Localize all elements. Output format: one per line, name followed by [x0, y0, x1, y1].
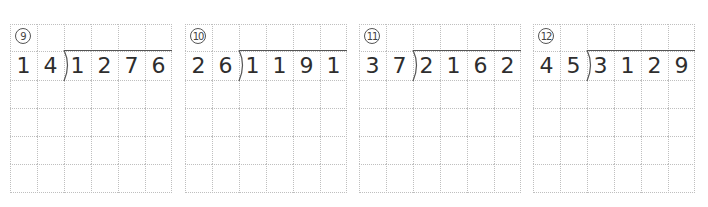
grid-cell[interactable] — [37, 80, 64, 108]
grid-cell[interactable] — [239, 108, 266, 136]
grid-cell[interactable] — [91, 24, 118, 51]
grid-cell[interactable] — [118, 80, 145, 108]
grid-cell[interactable] — [212, 136, 239, 164]
grid-cell[interactable] — [145, 136, 172, 164]
grid-cell[interactable] — [64, 80, 91, 108]
grid-cell[interactable] — [467, 164, 494, 193]
grid-cell[interactable] — [533, 164, 560, 193]
grid-cell[interactable] — [641, 164, 668, 193]
grid-cell[interactable] — [293, 164, 320, 193]
grid-cell[interactable] — [533, 80, 560, 108]
grid-cell[interactable] — [386, 108, 413, 136]
grid-cell[interactable] — [64, 108, 91, 136]
grid-cell[interactable] — [266, 136, 293, 164]
grid-cell[interactable] — [668, 164, 695, 193]
grid-cell[interactable] — [185, 164, 212, 193]
grid-cell[interactable] — [91, 80, 118, 108]
grid-cell[interactable] — [118, 108, 145, 136]
grid-cell[interactable] — [359, 80, 386, 108]
grid-cell[interactable] — [145, 164, 172, 193]
grid-cell[interactable] — [467, 136, 494, 164]
grid-cell[interactable] — [10, 80, 37, 108]
grid-cell[interactable] — [533, 136, 560, 164]
grid-cell[interactable] — [118, 164, 145, 193]
grid-cell[interactable] — [293, 136, 320, 164]
grid-cell[interactable] — [118, 24, 145, 51]
grid-cell[interactable] — [440, 136, 467, 164]
grid-cell[interactable] — [560, 24, 587, 51]
grid-cell[interactable] — [10, 136, 37, 164]
grid-cell[interactable] — [185, 80, 212, 108]
grid-cell[interactable] — [145, 80, 172, 108]
grid-cell[interactable] — [239, 136, 266, 164]
grid-cell[interactable] — [266, 164, 293, 193]
grid-cell[interactable] — [185, 108, 212, 136]
grid-cell[interactable] — [359, 108, 386, 136]
grid-cell[interactable] — [386, 136, 413, 164]
grid-cell[interactable] — [440, 164, 467, 193]
grid-cell[interactable] — [64, 164, 91, 193]
grid-cell[interactable] — [185, 136, 212, 164]
grid-cell[interactable] — [239, 80, 266, 108]
grid-cell[interactable] — [239, 164, 266, 193]
grid-cell[interactable] — [212, 80, 239, 108]
grid-cell[interactable] — [533, 108, 560, 136]
grid-cell[interactable] — [293, 108, 320, 136]
grid-cell[interactable] — [320, 108, 347, 136]
grid-cell[interactable] — [587, 80, 614, 108]
grid-cell[interactable] — [118, 136, 145, 164]
grid-cell[interactable] — [266, 80, 293, 108]
grid-cell[interactable] — [494, 136, 521, 164]
grid-cell[interactable] — [37, 24, 64, 51]
grid-cell[interactable] — [614, 24, 641, 51]
grid-cell[interactable] — [386, 24, 413, 51]
grid-cell[interactable] — [494, 108, 521, 136]
grid-cell[interactable] — [587, 136, 614, 164]
grid-cell[interactable] — [37, 108, 64, 136]
grid-cell[interactable] — [212, 24, 239, 51]
grid-cell[interactable] — [359, 164, 386, 193]
grid-cell[interactable] — [587, 164, 614, 193]
grid-cell[interactable] — [440, 108, 467, 136]
grid-cell[interactable] — [614, 108, 641, 136]
grid-cell[interactable] — [614, 136, 641, 164]
grid-cell[interactable] — [413, 164, 440, 193]
grid-cell[interactable] — [560, 108, 587, 136]
grid-cell[interactable] — [239, 24, 266, 51]
grid-cell[interactable] — [91, 164, 118, 193]
grid-cell[interactable] — [413, 80, 440, 108]
grid-cell[interactable] — [587, 108, 614, 136]
grid-cell[interactable] — [494, 80, 521, 108]
grid-cell[interactable] — [359, 136, 386, 164]
grid-cell[interactable] — [413, 108, 440, 136]
grid-cell[interactable] — [320, 164, 347, 193]
grid-cell[interactable] — [614, 164, 641, 193]
grid-cell[interactable] — [413, 24, 440, 51]
grid-cell[interactable] — [386, 80, 413, 108]
grid-cell[interactable] — [145, 108, 172, 136]
grid-cell[interactable] — [37, 136, 64, 164]
grid-cell[interactable] — [560, 80, 587, 108]
grid-cell[interactable] — [467, 80, 494, 108]
grid-cell[interactable] — [467, 24, 494, 51]
grid-cell[interactable] — [37, 164, 64, 193]
grid-cell[interactable] — [320, 136, 347, 164]
grid-cell[interactable] — [668, 136, 695, 164]
grid-cell[interactable] — [266, 24, 293, 51]
grid-cell[interactable] — [64, 136, 91, 164]
grid-cell[interactable] — [494, 24, 521, 51]
grid-cell[interactable] — [91, 108, 118, 136]
grid-cell[interactable] — [467, 108, 494, 136]
grid-cell[interactable] — [587, 24, 614, 51]
grid-cell[interactable] — [614, 80, 641, 108]
grid-cell[interactable] — [668, 108, 695, 136]
grid-cell[interactable] — [10, 108, 37, 136]
grid-cell[interactable] — [440, 80, 467, 108]
grid-cell[interactable] — [320, 80, 347, 108]
grid-cell[interactable] — [293, 80, 320, 108]
grid-cell[interactable] — [560, 164, 587, 193]
grid-cell[interactable] — [212, 164, 239, 193]
grid-cell[interactable] — [293, 24, 320, 51]
grid-cell[interactable] — [64, 24, 91, 51]
grid-cell[interactable] — [266, 108, 293, 136]
